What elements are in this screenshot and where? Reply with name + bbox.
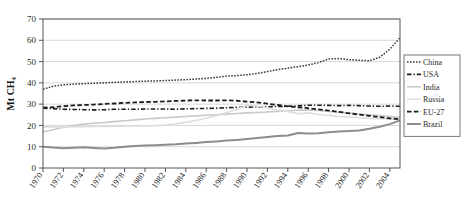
legend-label: Brazil [423,120,443,129]
x-axis-ticks: 1970197219741976197819801982198419861988… [27,168,392,190]
legend-label: EU-27 [423,108,444,117]
x-tick-label: 1978 [108,170,126,190]
x-tick-label: 2000 [333,170,351,190]
x-tick-label: 1980 [129,170,147,190]
x-tick-label: 1972 [47,170,65,190]
y-axis-ticks: 010203040506070 [27,14,43,173]
x-tick-label: 1976 [88,170,106,190]
legend-label: China [423,58,443,67]
x-tick-label: 1996 [292,170,310,190]
x-tick-label: 1990 [231,170,249,190]
y-tick-label: 20 [27,121,37,131]
y-tick-label: 10 [27,142,37,152]
legend-label: India [423,83,440,92]
x-tick-label: 1988 [210,170,228,190]
plot-background [43,19,400,168]
chart-container: 010203040506070 197019721974197619781980… [0,0,463,207]
x-tick-label: 1974 [67,170,85,190]
y-tick-label: 40 [27,78,37,88]
y-tick-label: 50 [27,57,37,67]
line-chart: 010203040506070 197019721974197619781980… [0,0,463,207]
legend-label: Russia [423,95,445,104]
y-axis-title: Mt CH₄ [5,77,16,110]
x-tick-label: 1998 [312,170,330,190]
y-tick-label: 30 [27,99,37,109]
x-tick-label: 1982 [149,170,167,190]
x-tick-label: 1970 [27,170,45,190]
x-tick-label: 1984 [169,170,187,190]
x-tick-label: 2004 [373,170,391,190]
svg-text:Mt CH₄: Mt CH₄ [5,77,16,110]
x-tick-label: 2002 [353,170,371,190]
x-tick-label: 1994 [271,170,289,190]
legend-label: USA [423,70,439,79]
x-tick-label: 1992 [251,170,269,190]
chart-legend: ChinaUSAIndiaRussiaEU-27Brazil [404,55,460,136]
y-tick-label: 70 [27,14,37,24]
x-tick-label: 1986 [190,170,208,190]
y-tick-label: 60 [27,35,37,45]
